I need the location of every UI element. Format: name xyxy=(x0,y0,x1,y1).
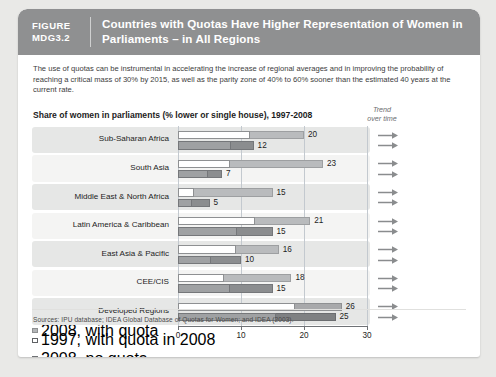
chart-bars: 20122371552115161018152625 xyxy=(178,126,466,326)
figure-tag-line1: FIGURE xyxy=(32,20,88,33)
legend-label: 2008, no quota xyxy=(41,350,148,357)
category-label: CEE/CIS xyxy=(32,277,169,286)
bar-group: 2115 xyxy=(178,212,367,241)
intro-paragraph: The use of quotas can be instrumental in… xyxy=(33,64,464,96)
bar-1997-with-quota xyxy=(178,274,224,282)
bar-1997-with-quota xyxy=(178,131,250,139)
chart-plot-area: Sub-Saharan AfricaSouth AsiaMiddle East … xyxy=(32,126,466,332)
bar-value-label: 25 xyxy=(340,312,349,321)
category-label: Developed Regions xyxy=(32,306,169,315)
trend-arrows-column xyxy=(373,126,409,326)
bar-1997-no-quota xyxy=(178,284,230,292)
trend-label-line2: over time xyxy=(353,114,411,123)
bar-1997-no-quota xyxy=(178,170,208,178)
legend-filled-square-icon xyxy=(32,356,38,357)
bar-1997-with-quota xyxy=(178,188,194,196)
trend-arrow-icon xyxy=(377,217,399,226)
sources-note: Sources: IPU database; IDEA Global Datab… xyxy=(33,316,294,323)
figure-body: The use of quotas can be instrumental in… xyxy=(18,64,480,332)
axis-tick-label: 10 xyxy=(226,331,256,340)
bar-value-label: 15 xyxy=(277,284,286,293)
bar-value-label: 21 xyxy=(314,216,323,225)
axis-tick-label: 0 xyxy=(163,331,193,340)
figure-card: FIGURE MDG3.2 Countries with Quotas Have… xyxy=(18,9,480,357)
trend-arrow-icon xyxy=(377,302,399,311)
trend-arrow-icon xyxy=(377,313,399,322)
trend-arrow-icon xyxy=(377,188,399,197)
figure-tag-line2: MDG3.2 xyxy=(32,32,88,45)
category-label: South Asia xyxy=(32,163,169,172)
header-divider xyxy=(90,17,91,47)
bar-1997-with-quota xyxy=(178,217,255,225)
bar-value-label: 20 xyxy=(308,130,317,139)
bar-value-label: 5 xyxy=(214,198,219,207)
trend-arrow-icon xyxy=(377,131,399,140)
figure-title: Countries with Quotas Have Higher Repres… xyxy=(102,17,480,46)
bar-value-label: 15 xyxy=(277,188,286,197)
bar-1997-no-quota xyxy=(178,199,192,207)
trend-column-label: Trend over time xyxy=(353,105,411,124)
trend-arrow-icon xyxy=(377,227,399,236)
bar-value-label: 15 xyxy=(277,227,286,236)
legend-hollow-square-icon xyxy=(32,338,38,344)
bar-1997-no-quota xyxy=(178,141,231,149)
trend-arrow-icon xyxy=(377,159,399,168)
bar-group: 1610 xyxy=(178,240,367,269)
bar-value-label: 23 xyxy=(327,159,336,168)
axis-tick-label: 20 xyxy=(289,331,319,340)
footer-divider xyxy=(32,309,466,310)
trend-label-line1: Trend xyxy=(353,105,411,114)
trend-arrow-icon xyxy=(377,274,399,283)
bar-group: 1815 xyxy=(178,269,367,298)
bar-value-label: 10 xyxy=(245,255,254,264)
category-label: East Asia & Pacific xyxy=(32,249,169,258)
legend-item: 2008, no quota xyxy=(32,354,466,357)
chart-title: Share of women in parliaments (% lower o… xyxy=(33,110,312,120)
legend-filled-square-icon xyxy=(32,328,38,334)
trend-arrow-icon xyxy=(377,245,399,254)
axis-tick xyxy=(367,326,368,330)
axis-tick xyxy=(241,326,242,330)
bar-value-label: 12 xyxy=(258,141,267,150)
trend-arrow-icon xyxy=(377,141,399,150)
axis-tick xyxy=(178,326,179,330)
bar-1997-no-quota xyxy=(178,256,211,264)
category-label: Sub-Saharan Africa xyxy=(32,134,169,143)
bar-group: 155 xyxy=(178,183,367,212)
category-label: Middle East & North Africa xyxy=(32,192,169,201)
axis-tick xyxy=(304,326,305,330)
bar-group: 2012 xyxy=(178,126,367,155)
bar-1997-with-quota xyxy=(178,160,230,168)
trend-arrow-icon xyxy=(377,256,399,265)
trend-arrow-icon xyxy=(377,170,399,179)
bar-1997-with-quota xyxy=(178,245,236,253)
bar-value-label: 16 xyxy=(283,245,292,254)
bar-group: 237 xyxy=(178,154,367,183)
bar-value-label: 7 xyxy=(226,169,231,178)
axis-tick-label: 30 xyxy=(352,331,382,340)
trend-arrow-icon xyxy=(377,284,399,293)
bar-value-label: 18 xyxy=(295,273,304,282)
category-label: Latin America & Caribbean xyxy=(32,220,169,229)
bar-1997-no-quota xyxy=(178,227,237,235)
trend-arrow-icon xyxy=(377,198,399,207)
figure-header: FIGURE MDG3.2 Countries with Quotas Have… xyxy=(18,9,480,55)
figure-tag: FIGURE MDG3.2 xyxy=(32,20,88,45)
chart-header: Share of women in parliaments (% lower o… xyxy=(32,107,466,125)
